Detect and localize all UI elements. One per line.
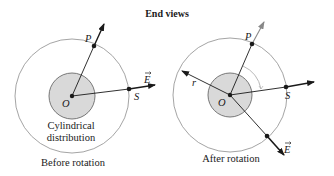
label-o: O: [62, 98, 70, 109]
label-p: P: [244, 31, 252, 42]
caption-after-rotation: After rotation: [202, 153, 260, 164]
distribution-label-line1: Cylindrical: [47, 120, 94, 131]
label-e: E: [143, 74, 151, 85]
field-arrow-s: [286, 82, 314, 87]
label-s: S: [285, 90, 291, 101]
diagram-title: End views: [145, 8, 189, 19]
point-s: [284, 85, 289, 90]
label-r: r: [192, 77, 197, 88]
label-o: O: [218, 97, 226, 108]
origin-point: [70, 94, 74, 98]
origin-point: [228, 93, 232, 97]
panel-before-rotation: O P S E Cylindrical distribution Before …: [15, 24, 155, 168]
panel-after-rotation: O P S r E After rotation: [173, 22, 314, 164]
point-e: [265, 134, 270, 139]
label-p: P: [84, 33, 92, 44]
label-e: E: [283, 144, 291, 155]
field-arrow-p: [94, 24, 104, 46]
end-views-diagram: End views O P S E Cylindrical distributi…: [0, 0, 334, 176]
field-arrow-e: [267, 136, 284, 155]
caption-before-rotation: Before rotation: [41, 157, 106, 168]
field-arrow-s: [129, 85, 155, 89]
point-s: [127, 87, 132, 92]
distribution-label-line2: distribution: [47, 132, 96, 143]
point-p: [92, 44, 97, 49]
point-p: [250, 42, 255, 47]
label-s: S: [134, 91, 140, 102]
ghost-arrow-p: [252, 22, 264, 44]
